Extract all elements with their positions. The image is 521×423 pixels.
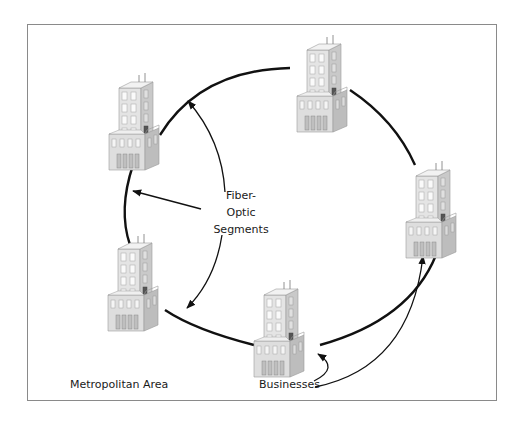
arrow-to-bottom-segment (187, 235, 222, 308)
ring-segment-bottom-left (165, 310, 254, 345)
businesses-label: Businesses (259, 376, 320, 393)
arrow-to-top-segment (188, 101, 225, 192)
arrow-to-left-segment (133, 191, 201, 209)
ring-segment-top-right (350, 90, 415, 165)
metropolitan-area-label: Metropolitan Area (70, 376, 168, 393)
building-right-icon (406, 161, 456, 258)
fiber-optic-segments-label: Fiber- Optic Segments (201, 187, 281, 238)
ring-segment-left (125, 165, 133, 245)
label-line-1: Fiber- (201, 187, 281, 204)
ring-segment-top (160, 68, 290, 135)
ring-segment-right (320, 255, 436, 345)
arrow-to-right-building (315, 256, 423, 387)
label-line-2: Optic (201, 204, 281, 221)
building-left-bottom-icon (108, 234, 158, 331)
building-top-left-icon (109, 73, 159, 170)
building-top-right-icon (297, 35, 347, 132)
label-line-3: Segments (201, 221, 281, 238)
building-bottom-icon (254, 280, 304, 377)
